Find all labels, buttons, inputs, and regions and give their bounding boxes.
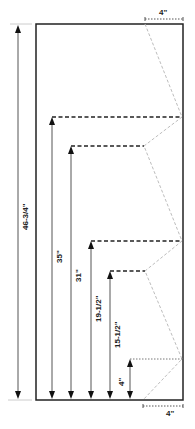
top-offset-label: 4": [159, 8, 167, 17]
zigzag-layout-diagram: 46-3/4" 4" 4" 35" 31" 19-1/2": [0, 0, 195, 429]
dimension-31-label: 31": [74, 269, 83, 282]
dimension-15-1-2-label: 15-1/2": [113, 321, 122, 348]
overall-height-dimension: 46-3/4": [15, 25, 30, 399]
bottom-offset-dimension: 4": [143, 404, 183, 418]
dimension-19-1-2: 19-1/2": [88, 241, 182, 399]
dimension-31: 31": [68, 146, 144, 399]
dimension-35-label: 35": [55, 250, 64, 263]
dimension-4-label: 4": [117, 378, 126, 386]
dimension-19-1-2-label: 19-1/2": [94, 295, 103, 322]
dimension-15-1-2: 15-1/2": [107, 271, 145, 399]
overall-height-label: 46-3/4": [21, 203, 30, 230]
zigzag-fold-line: [143, 24, 182, 400]
top-offset-dimension: 4": [145, 8, 183, 21]
bottom-offset-label: 4": [166, 409, 174, 418]
dimension-35: 35": [49, 117, 182, 399]
